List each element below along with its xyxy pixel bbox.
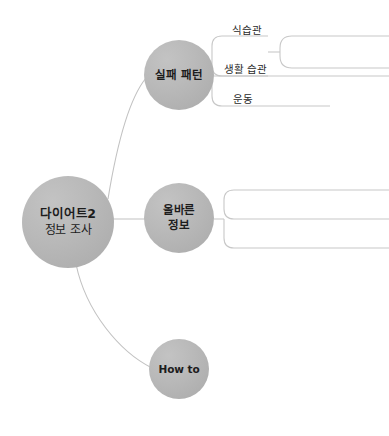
- node-root-line2: 정보 조사: [45, 222, 92, 238]
- node-failure-pattern[interactable]: 실패 패턴: [144, 40, 214, 110]
- leaf-label-exercise: 운동: [233, 93, 253, 106]
- bracket-correct-info: [224, 190, 268, 248]
- node-correct-info-line1: 올바른: [163, 203, 195, 218]
- node-failure-pattern-label: 실패 패턴: [155, 68, 202, 83]
- node-correct-info[interactable]: 올바른 정보: [144, 183, 214, 253]
- node-how-to-label: How to: [159, 362, 200, 376]
- mindmap-canvas: 식습관 생활 습관 운동 다이어트2 정보 조사 실패 패턴 올바른 정보 Ho…: [0, 0, 389, 436]
- node-correct-info-line2: 정보: [168, 218, 190, 233]
- connector-root-to-failure-pattern: [108, 78, 146, 199]
- node-root[interactable]: 다이어트2 정보 조사: [22, 176, 114, 268]
- node-how-to[interactable]: How to: [149, 339, 209, 399]
- leaf-label-life-habit: 생활 습관: [224, 63, 266, 76]
- node-root-line1: 다이어트2: [40, 206, 96, 222]
- leaf-label-eating-habit: 식습관: [232, 24, 261, 37]
- bracket-nested-eating-habit: [280, 36, 389, 68]
- connector-root-to-how-to: [76, 264, 152, 368]
